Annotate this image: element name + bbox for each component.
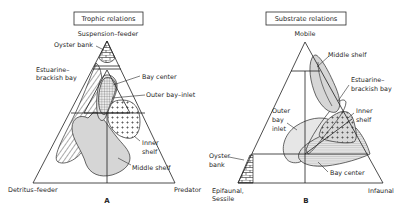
label-oyster-bank: Oyster bank — [54, 41, 93, 49]
panel-a-title: Trophic relations — [80, 15, 136, 23]
label-outer-1: Outer — [272, 107, 291, 115]
panel-b-letter: B — [303, 197, 308, 205]
ternary-diagram-figure: Trophic relations — [0, 0, 406, 212]
label-inner-shelf-1: Inner — [356, 107, 373, 115]
field-middle-shelf — [310, 55, 340, 112]
label-inner-shelf-2: shelf — [142, 148, 158, 156]
label-bay-center: Bay center — [330, 169, 365, 177]
vertex-epifaunal: Epifaunal, — [212, 187, 244, 195]
label-middle-shelf: Middle shelf — [132, 164, 171, 172]
field-inner-shelf — [319, 111, 356, 142]
panel-a: Trophic relations — [8, 12, 202, 205]
panel-a-letter: A — [104, 197, 110, 205]
label-inner-shelf-1: Inner — [142, 139, 159, 147]
vertex-infaunal: Infaunal — [368, 187, 394, 195]
label-middle-shelf: Middle shelf — [328, 51, 367, 59]
label-outer-3: inlet — [272, 125, 287, 133]
label-estuarine-2: brackish bay — [351, 85, 392, 93]
label-estuarine-2: brackish bay — [36, 74, 77, 82]
label-estuarine-1: Estuarine– — [351, 76, 384, 84]
label-outer-bay-inlet: Outer bay–inlet — [146, 91, 196, 99]
vertex-predator: Predator — [174, 186, 202, 194]
vertex-mobile: Mobile — [295, 30, 316, 38]
label-estuarine-1: Estuarine– — [36, 66, 69, 74]
panel-b-title: Substrate relations — [275, 15, 338, 23]
label-bay-center: Bay center — [142, 73, 177, 81]
label-oyster-1: Oyster — [209, 152, 231, 160]
vertex-detritus-feeder: Detritus–feeder — [8, 186, 58, 194]
vertex-sessile: Sessile — [212, 195, 234, 203]
label-oyster-2: bank — [209, 161, 225, 169]
label-outer-2: bay — [272, 116, 284, 124]
vertex-suspension-feeder: Suspension–feeder — [78, 30, 139, 38]
label-inner-shelf-2: shelf — [356, 116, 372, 124]
panel-b-fields — [238, 55, 370, 183]
panel-b: Substrate relations — [209, 12, 394, 205]
